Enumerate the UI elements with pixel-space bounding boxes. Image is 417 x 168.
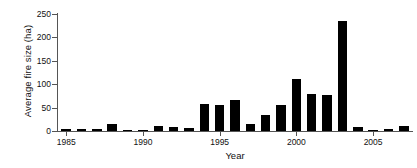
x-tick-mark	[296, 132, 297, 136]
x-tick-label: 1990	[123, 138, 163, 147]
bar	[246, 124, 256, 131]
bar	[138, 130, 148, 131]
y-tick-label: 200	[9, 33, 51, 41]
bar	[322, 95, 332, 132]
bar	[399, 126, 409, 131]
bar	[184, 128, 194, 131]
bar	[200, 104, 210, 131]
x-axis-title: Year	[55, 150, 415, 161]
y-tick-label: 250	[9, 10, 51, 18]
bar	[338, 21, 348, 131]
bar	[123, 130, 133, 131]
bar	[261, 115, 271, 131]
y-tick-label: 100	[9, 80, 51, 88]
bar	[292, 79, 302, 131]
x-tick-label: 1985	[46, 138, 86, 147]
bar	[276, 105, 286, 131]
y-tick-mark	[52, 131, 57, 132]
x-tick-label: 2005	[353, 138, 393, 147]
bar	[77, 129, 87, 131]
bar	[61, 129, 71, 131]
bars-layer	[57, 14, 413, 131]
bar	[230, 100, 240, 131]
y-tick-label: 150	[9, 57, 51, 65]
x-axis-line	[57, 131, 413, 132]
bar	[307, 94, 317, 131]
x-tick-mark	[143, 132, 144, 136]
x-tick-label: 2000	[276, 138, 316, 147]
bar	[92, 129, 102, 131]
chart-figure: Average fire size (ha) 050100150200250 1…	[0, 0, 417, 168]
bar	[215, 105, 225, 131]
bar	[384, 129, 394, 131]
x-tick-mark	[220, 132, 221, 136]
bar	[154, 126, 164, 131]
bar	[107, 124, 117, 131]
bar	[368, 130, 378, 131]
y-tick-label: 50	[9, 104, 51, 112]
y-tick-label: 0	[9, 127, 51, 135]
x-tick-label: 1995	[200, 138, 240, 147]
x-tick-mark	[66, 132, 67, 136]
bar	[353, 127, 363, 131]
x-tick-mark	[373, 132, 374, 136]
y-axis-title: Average fire size (ha)	[18, 6, 38, 136]
bar	[169, 127, 179, 131]
